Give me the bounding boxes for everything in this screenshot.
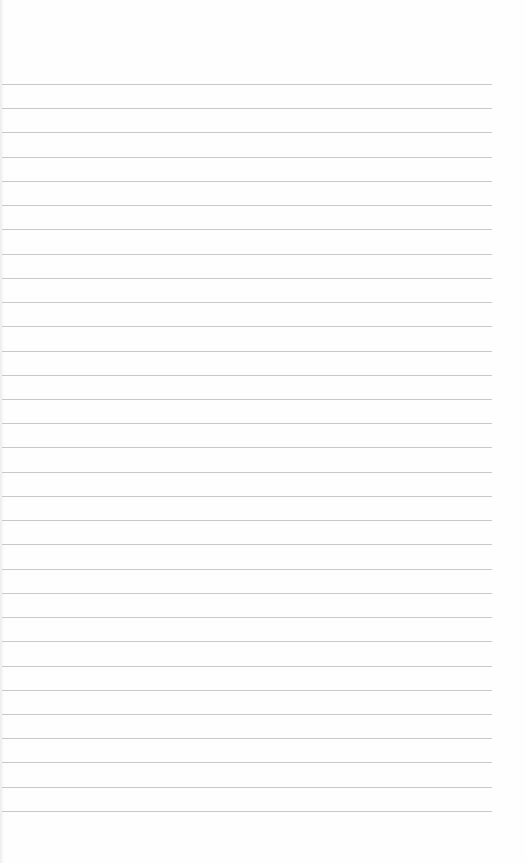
ruled-line — [2, 157, 492, 158]
ruled-line — [2, 738, 492, 739]
ruled-line — [2, 447, 492, 448]
ruled-line — [2, 520, 492, 521]
ruled-line — [2, 423, 492, 424]
ruled-line — [2, 569, 492, 570]
ruled-line — [2, 108, 492, 109]
ruled-line — [2, 593, 492, 594]
ruled-line — [2, 762, 492, 763]
lined-paper-page — [0, 0, 526, 863]
ruled-line — [2, 132, 492, 133]
ruled-line — [2, 326, 492, 327]
ruled-line — [2, 544, 492, 545]
ruled-line — [2, 617, 492, 618]
ruled-line — [2, 399, 492, 400]
page-edge-shadow — [0, 0, 4, 863]
ruled-line — [2, 496, 492, 497]
ruled-line — [2, 254, 492, 255]
ruled-line — [2, 302, 492, 303]
ruled-line — [2, 714, 492, 715]
ruled-line — [2, 690, 492, 691]
ruled-line — [2, 181, 492, 182]
ruled-line — [2, 229, 492, 230]
ruled-line — [2, 84, 492, 85]
ruled-line — [2, 205, 492, 206]
ruled-line — [2, 787, 492, 788]
ruled-line — [2, 351, 492, 352]
ruled-line — [2, 666, 492, 667]
ruled-line — [2, 375, 492, 376]
ruled-line — [2, 472, 492, 473]
ruled-line — [2, 641, 492, 642]
ruled-line — [2, 278, 492, 279]
ruled-line — [2, 811, 492, 812]
